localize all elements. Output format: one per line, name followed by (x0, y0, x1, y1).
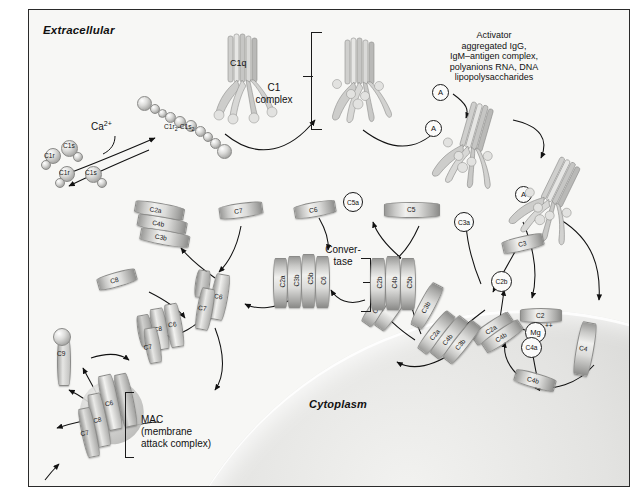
diagram-frame: Extracellular Cytoplasm (28, 9, 630, 487)
c2-cylinder: C2 (520, 308, 562, 323)
c2-label: C2 (536, 312, 544, 319)
magnesium-charge: ++ (545, 322, 553, 330)
c1r2-c1s2-label: C1r2-C1s2 (164, 123, 194, 132)
c1-complex-label: C1 complex (247, 82, 301, 106)
int2-label-c7: C7 (143, 343, 153, 351)
c3-label: C3 (517, 239, 527, 248)
c5a-circle: C5a (343, 192, 363, 212)
int2-label-c6: C6 (167, 320, 177, 328)
mac-caption: MAC (membrane attack complex) (141, 414, 211, 449)
c1-complex-molecule (321, 38, 399, 130)
rel-label-c2a: C2a (149, 205, 162, 214)
c4-label: C4 (579, 344, 589, 352)
c5-label: C5 (407, 206, 415, 213)
label-cytoplasm: Cytoplasm (309, 398, 367, 411)
c9-label: C9 (57, 350, 65, 357)
c1s-label-b: C1s (85, 169, 97, 176)
convl-label-c5b: C5b (307, 272, 314, 284)
mac-label-c7: C7 (80, 429, 90, 438)
c2b-circle: C2b (491, 271, 512, 292)
conv-label-c4b: C4b (391, 276, 398, 288)
c1s-label-a: C1s (63, 142, 75, 149)
int1-label-c6: C6 (214, 292, 224, 300)
convl-label-c3b: C3b (293, 274, 300, 286)
conv-label-c5b: C5b (406, 276, 413, 288)
mac-bracket (125, 392, 134, 458)
figure-canvas: Extracellular Cytoplasm (0, 0, 639, 498)
c1r-c1s-monomers: C1s C1r C1r C1s (37, 138, 137, 200)
calcium-label: Ca2+ (91, 120, 112, 133)
c8-label: C8 (109, 276, 119, 285)
c1r-label-a: C1r (44, 152, 55, 159)
c5-cylinder: C5 (384, 202, 440, 218)
c6-label: C6 (308, 206, 318, 214)
c9-protein: C9 (51, 328, 77, 384)
activator-text: Activator aggregated IgG, IgM–antigen co… (399, 30, 589, 83)
c1q-label: C1q (230, 58, 247, 69)
stack-label-c3b: C3b (453, 338, 466, 352)
convertase-right-group: C2b C4b C5b (370, 256, 428, 314)
c3a-circle: C3a (454, 212, 474, 232)
convl-label-c6: C6 (320, 276, 327, 284)
rel-label-c3b: C3b (154, 233, 167, 242)
conv-label-c2b: C2b (376, 276, 383, 288)
c7-label: C7 (234, 207, 243, 215)
convl-label-c2a: C2a (279, 275, 286, 287)
rel-label-c4b: C4b (152, 219, 165, 228)
c1-complex-tick (303, 76, 313, 77)
convertase-left-group: C2a C3b C5b C6 (273, 254, 335, 312)
released-stack: C2a C4b C3b (127, 199, 201, 264)
c4b-label: C4b (526, 375, 540, 385)
c1r-label-b: C1r (59, 169, 70, 176)
label-extracellular: Extracellular (43, 24, 115, 38)
mac-label-c6: C6 (104, 399, 114, 408)
